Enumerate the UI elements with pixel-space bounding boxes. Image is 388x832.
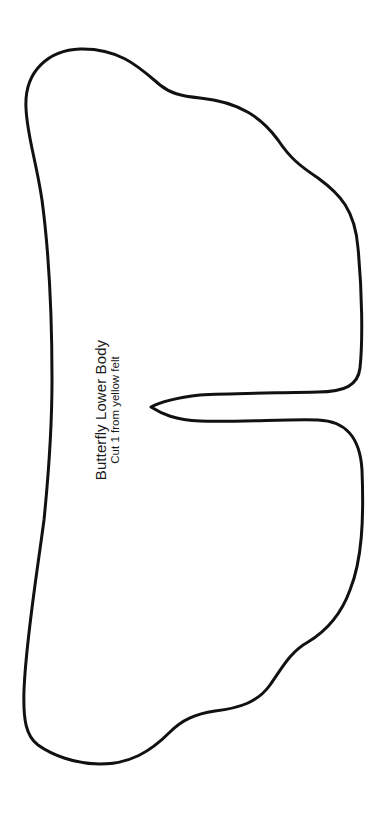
cut-outline-path (24, 49, 363, 764)
butterfly-lower-body-outline (0, 0, 388, 832)
